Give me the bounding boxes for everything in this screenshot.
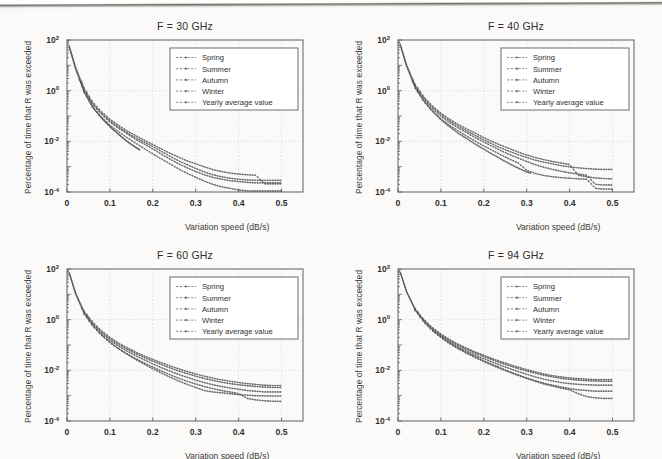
x-tick-label: 0.3: [521, 198, 533, 208]
x-tick-label: 0.5: [607, 198, 619, 208]
legend-marker: [185, 330, 187, 332]
legend-marker: [516, 308, 518, 310]
legend-label: Autumn: [533, 76, 559, 85]
x-tick-label: 0: [65, 427, 70, 437]
y-tick-label: 10-2: [44, 365, 59, 375]
legend-label: Winter: [533, 316, 555, 325]
x-tick-label: 0.2: [147, 427, 159, 437]
x-tick-label: 0.4: [233, 198, 245, 208]
y-tick-label: 100: [46, 85, 59, 95]
y-tick-label: 100: [377, 85, 390, 95]
y-tick-label: 10-4: [375, 187, 390, 197]
legend-marker: [516, 68, 518, 70]
figure-panel-grid: F = 30 GHz Percentage of time that R was…: [0, 0, 662, 459]
x-tick-label: 0.4: [564, 198, 576, 208]
legend: SpringSummerAutumnWinterYearly average v…: [501, 277, 629, 339]
x-tick-label: 0.4: [564, 427, 576, 437]
x-tick-label: 0.2: [478, 427, 490, 437]
panel-94ghz: F = 94 GHz Percentage of time that R was…: [331, 229, 662, 459]
legend-label: Yearly average value: [202, 327, 273, 336]
x-tick-label: 0.5: [607, 427, 619, 437]
y-tick-label: 10-2: [375, 136, 390, 146]
legend-label: Summer: [202, 65, 231, 74]
legend-marker: [516, 297, 518, 299]
y-tick-label: 100: [46, 314, 59, 324]
y-tick-label: 102: [377, 35, 390, 45]
legend-label: Yearly average value: [533, 98, 604, 107]
x-tick-label: 0: [396, 198, 401, 208]
legend-marker: [185, 101, 187, 103]
x-tick-label: 0.3: [521, 427, 533, 437]
y-tick-label: 102: [46, 264, 59, 274]
legend-marker: [516, 56, 518, 58]
legend: SpringSummerAutumnWinterYearly average v…: [170, 48, 298, 110]
x-tick-label: 0.2: [478, 198, 490, 208]
legend-label: Spring: [202, 53, 224, 62]
legend-label: Autumn: [202, 305, 228, 314]
legend-marker: [185, 285, 187, 287]
x-tick-label: 0.1: [435, 427, 447, 437]
legend-marker: [516, 79, 518, 81]
x-tick-label: 0.4: [233, 427, 245, 437]
legend-marker: [185, 56, 187, 58]
plot-area-30ghz: 00.10.20.30.40.510210010-210-4SpringSumm…: [0, 0, 331, 229]
y-tick-label: 102: [46, 35, 59, 45]
legend-label: Autumn: [533, 305, 559, 314]
legend-marker: [185, 319, 187, 321]
y-tick-label: 102: [377, 264, 390, 274]
legend-label: Summer: [533, 65, 562, 74]
legend-marker: [185, 79, 187, 81]
x-tick-label: 0.1: [104, 198, 116, 208]
y-tick-label: 10-2: [375, 365, 390, 375]
legend-marker: [516, 319, 518, 321]
legend-label: Yearly average value: [533, 327, 604, 336]
y-tick-label: 10-4: [375, 416, 390, 426]
plot-area-94ghz: 00.10.20.30.40.510210010-210-4SpringSumm…: [331, 229, 662, 458]
x-tick-label: 0.3: [190, 427, 202, 437]
x-tick-label: 0: [396, 427, 401, 437]
x-tick-label: 0.2: [147, 198, 159, 208]
y-tick-label: 10-2: [44, 136, 59, 146]
x-tick-label: 0.1: [435, 198, 447, 208]
legend-label: Summer: [533, 294, 562, 303]
y-tick-label: 100: [377, 314, 390, 324]
legend-marker: [185, 90, 187, 92]
x-tick-label: 0: [65, 198, 70, 208]
panel-40ghz: F = 40 GHz Percentage of time that R was…: [331, 0, 662, 229]
legend-label: Yearly average value: [202, 98, 273, 107]
legend-marker: [516, 90, 518, 92]
legend-marker: [516, 285, 518, 287]
legend-label: Winter: [533, 87, 555, 96]
legend-label: Spring: [202, 282, 224, 291]
x-tick-label: 0.5: [276, 198, 288, 208]
plot-area-40ghz: 00.10.20.30.40.510210010-210-4SpringSumm…: [331, 0, 662, 229]
legend-marker: [516, 330, 518, 332]
x-tick-label: 0.3: [190, 198, 202, 208]
y-tick-label: 10-4: [44, 187, 59, 197]
legend-label: Spring: [533, 53, 555, 62]
legend: SpringSummerAutumnWinterYearly average v…: [170, 277, 298, 339]
legend-marker: [185, 68, 187, 70]
plot-area-60ghz: 00.10.20.30.40.510210010-210-4SpringSumm…: [0, 229, 331, 458]
panel-30ghz: F = 30 GHz Percentage of time that R was…: [0, 0, 331, 229]
x-tick-label: 0.5: [276, 427, 288, 437]
legend-marker: [516, 101, 518, 103]
legend: SpringSummerAutumnWinterYearly average v…: [501, 48, 629, 110]
y-tick-label: 10-4: [44, 416, 59, 426]
legend-label: Summer: [202, 294, 231, 303]
legend-label: Spring: [533, 282, 555, 291]
legend-marker: [185, 308, 187, 310]
panel-60ghz: F = 60 GHz Percentage of time that R was…: [0, 229, 331, 459]
legend-label: Winter: [202, 87, 224, 96]
legend-label: Autumn: [202, 76, 228, 85]
legend-label: Winter: [202, 316, 224, 325]
x-tick-label: 0.1: [104, 427, 116, 437]
legend-marker: [185, 297, 187, 299]
